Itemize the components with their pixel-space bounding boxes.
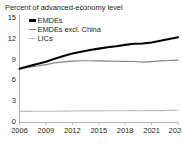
- legend-color-swatch-icon: [29, 19, 36, 21]
- x-axis-tick-label: 2012: [58, 127, 86, 135]
- x-axis-tick-label: 2006: [6, 127, 34, 135]
- legend-item: EMDEs excl. China: [29, 25, 101, 34]
- chart-container: Percent of advanced-economy level EMDEsE…: [0, 0, 182, 150]
- legend-color-swatch-icon: [29, 38, 36, 39]
- y-axis-tick-label: 15: [2, 14, 16, 22]
- legend-item: LICs: [29, 34, 101, 43]
- chart-legend: EMDEsEMDEs excl. ChinaLICs: [29, 16, 101, 43]
- legend-item-label: EMDEs excl. China: [38, 25, 101, 34]
- legend-item: EMDEs: [29, 16, 101, 25]
- x-axis-tick-label: 2009: [32, 127, 60, 135]
- x-axis-tick-label: 2018: [111, 127, 139, 135]
- y-axis-tick-label: 3: [2, 97, 16, 105]
- x-axis-tick-label: 2021: [138, 127, 166, 135]
- legend-item-label: LICs: [38, 34, 53, 43]
- y-axis-tick-label: 12: [2, 35, 16, 43]
- y-axis-tick-label: 0: [2, 118, 16, 126]
- y-axis-tick-label: 9: [2, 56, 16, 64]
- legend-color-swatch-icon: [29, 29, 36, 30]
- x-axis-tick-label: 2015: [85, 127, 113, 135]
- chart-series-line: [20, 110, 179, 111]
- y-axis-tick-label: 6: [2, 76, 16, 84]
- x-axis-tick-label: 2024f: [164, 127, 182, 135]
- legend-item-label: EMDEs: [38, 16, 63, 25]
